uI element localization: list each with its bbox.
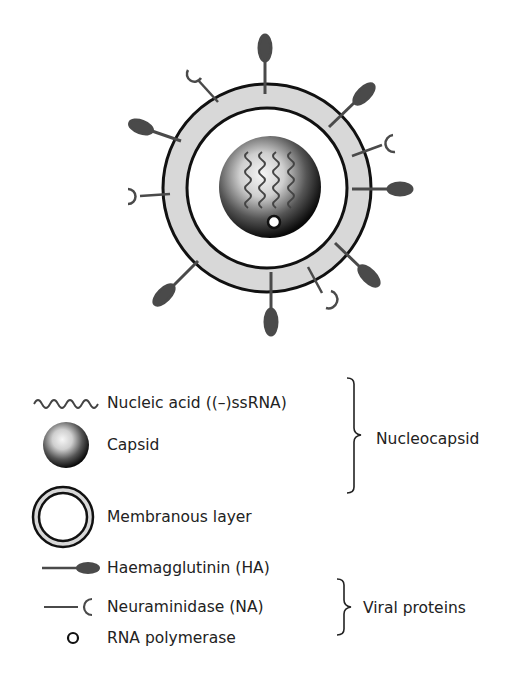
sphere-icon	[43, 422, 89, 468]
legend-label-capsid: Capsid	[107, 436, 159, 454]
legend-label-rna-polymerase: RNA polymerase	[107, 629, 236, 647]
group-label-viral-proteins: Viral proteins	[363, 599, 466, 617]
small-circle-icon	[68, 633, 78, 643]
double-ring-icon	[33, 487, 93, 547]
legend-label-haemagglutinin: Haemagglutinin (HA)	[107, 559, 270, 577]
haemagglutinin-spike-icon	[42, 562, 100, 574]
group-label-nucleocapsid: Nucleocapsid	[376, 430, 479, 448]
rna-polymerase	[268, 216, 280, 228]
wavy-line-icon	[34, 400, 98, 408]
legend-label-nucleic-acid: Nucleic acid ((–)ssRNA)	[107, 394, 287, 412]
legend-label-membranous-layer: Membranous layer	[107, 508, 252, 526]
nucleocapsid-brace	[347, 378, 361, 493]
viral-proteins-brace	[337, 579, 351, 635]
legend-label-neuraminidase: Neuraminidase (NA)	[107, 598, 264, 616]
neuraminidase-spike-icon	[44, 599, 92, 615]
